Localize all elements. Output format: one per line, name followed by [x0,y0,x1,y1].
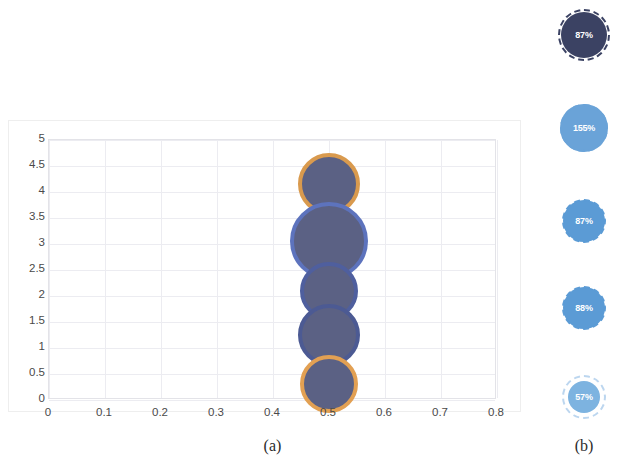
y-axis-tick-label: 4 [11,185,45,197]
y-axis-tick-label: 0 [11,393,45,405]
gridline-horizontal [49,296,495,297]
figure-panel-a: 00.511.522.533.544.55 00.10.20.30.40.50.… [0,0,545,474]
y-axis-tick-label: 2.5 [11,263,45,275]
plot-area [48,139,496,399]
y-axis-tick-label: 3.5 [11,211,45,223]
bubble-marker [300,355,358,413]
bubble-chart-frame: 00.511.522.533.544.55 00.10.20.30.40.50.… [8,120,521,412]
gridline-vertical [441,140,442,398]
badge-value-label: 87% [575,30,592,40]
x-axis-tick-label: 0.4 [252,407,292,419]
y-axis-tick-label: 5 [11,133,45,145]
gridline-vertical [105,140,106,398]
gridline-vertical [497,140,498,398]
y-axis-tick-label: 1.5 [11,315,45,327]
gridline-vertical [385,140,386,398]
gridline-horizontal [49,400,495,401]
y-axis-tick-label: 0.5 [11,367,45,379]
gridline-horizontal [49,218,495,219]
badge-88: 88% [563,287,605,329]
panel-a-caption: (a) [0,437,545,455]
badge-87-dark: 87% [561,12,607,58]
badge-value-label: 57% [575,392,592,402]
y-axis-tick-label: 3 [11,237,45,249]
gridline-vertical [161,140,162,398]
panel-b-caption: (b) [545,437,623,455]
gridline-horizontal [49,166,495,167]
x-axis-tick-label: 0.1 [84,407,124,419]
gridline-vertical [273,140,274,398]
badge-value-label: 155% [573,123,595,133]
badge-155: 155% [560,104,608,152]
gridline-horizontal [49,270,495,271]
x-axis-tick-label: 0.6 [364,407,404,419]
x-axis-tick-label: 0.2 [140,407,180,419]
gridline-horizontal [49,374,495,375]
badge-57: 57% [568,381,600,413]
gridline-horizontal [49,244,495,245]
y-axis-tick-label: 2 [11,289,45,301]
x-axis-tick-label: 0.3 [196,407,236,419]
badge-87-blue: 87% [563,200,605,242]
x-axis-tick-label: 0.5 [308,407,348,419]
y-axis-tick-label: 4.5 [11,159,45,171]
x-axis-tick-label: 0.7 [420,407,460,419]
y-axis-tick-labels: 00.511.522.533.544.55 [9,139,45,399]
badge-value-label: 87% [575,216,592,226]
gridline-horizontal [49,140,495,141]
gridline-horizontal [49,348,495,349]
gridline-horizontal [49,192,495,193]
badge-value-label: 88% [575,303,592,313]
x-axis-tick-label: 0 [28,407,68,419]
x-axis-tick-labels: 00.10.20.30.40.50.60.70.8 [48,407,496,427]
x-axis-tick-label: 0.8 [476,407,516,419]
gridline-horizontal [49,322,495,323]
figure-panel-b: 87%155%87%88%57% [545,0,623,474]
gridline-vertical [217,140,218,398]
gridline-vertical [49,140,50,398]
y-axis-tick-label: 1 [11,341,45,353]
